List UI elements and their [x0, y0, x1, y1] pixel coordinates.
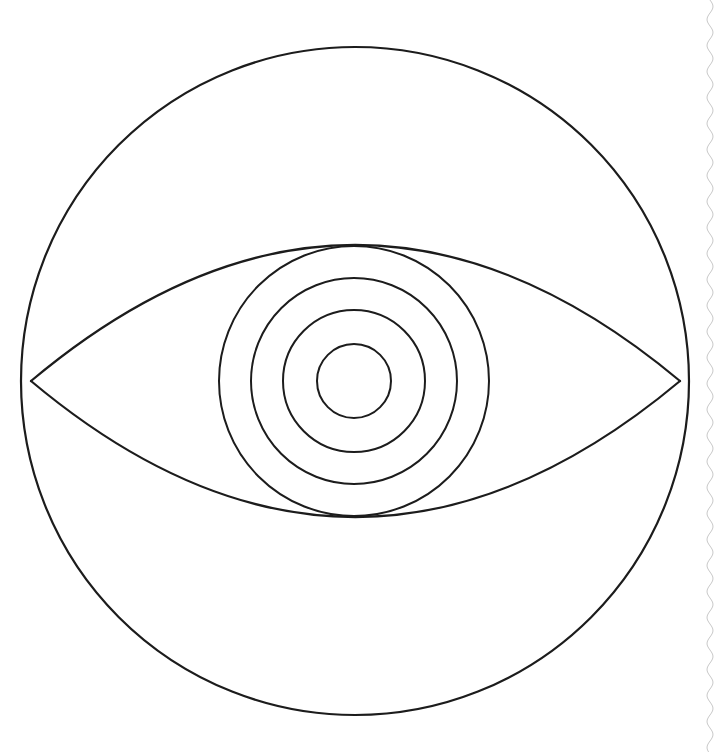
page-background	[0, 0, 720, 752]
eye-diagram-canvas	[0, 0, 720, 752]
eye-diagram-svg	[0, 0, 720, 752]
